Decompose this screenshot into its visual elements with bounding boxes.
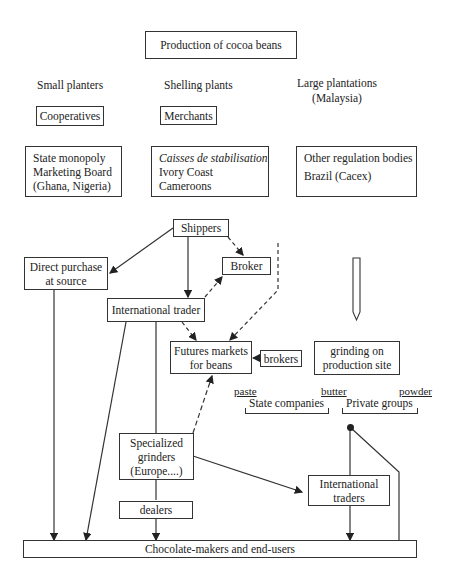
other-regulation-box: Other regulation bodies Brazil (Cacex) <box>296 146 417 197</box>
shippers-box: Shippers <box>173 219 229 237</box>
specialized-grinders-box: Specialized grinders (Europe....) <box>119 433 194 480</box>
small-planters-label: Small planters <box>37 78 103 93</box>
end-users-box: Chocolate-makers and end-users <box>23 540 417 558</box>
grinding-site-box: grinding on production site <box>314 341 400 375</box>
private-groups-bracket <box>342 408 418 414</box>
dealers-box: dealers <box>119 501 193 519</box>
international-trader-box: International trader <box>107 298 205 322</box>
cocoa-trade-diagram: Production of cocoa beans Small planters… <box>0 0 454 578</box>
merchants-box: Merchants <box>160 106 217 125</box>
futures-markets-box: Futures markets for beans <box>170 341 252 374</box>
cooperatives-box: Cooperatives <box>36 106 104 126</box>
caisses-box: Caisses de stabilisation Ivory Coast Cam… <box>151 146 269 197</box>
international-traders-box: International traders <box>308 475 390 506</box>
direct-purchase-box: Direct purchase at source <box>24 257 108 290</box>
state-monopoly-box: State monopoly Marketing Board (Ghana, N… <box>25 146 122 197</box>
broker-box: Broker <box>222 257 271 275</box>
state-companies-bracket <box>245 408 329 414</box>
shelling-plants-label: Shelling plants <box>164 78 233 93</box>
production-label: Production of cocoa beans <box>160 38 282 52</box>
butter-label: butter <box>321 384 347 399</box>
production-box: Production of cocoa beans <box>145 31 297 59</box>
brokers-box: brokers <box>260 350 302 367</box>
large-plantations-label: Large plantations (Malaysia) <box>297 76 377 106</box>
junction-dot <box>347 424 354 431</box>
